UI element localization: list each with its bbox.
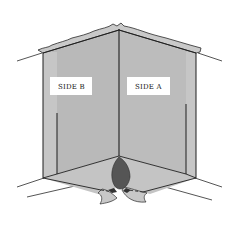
label-side-b: SIDE B <box>50 77 92 95</box>
corner-diagram: SIDE B SIDE A <box>0 0 235 237</box>
wall-side-a <box>119 29 196 178</box>
wall-edge-left <box>43 52 57 178</box>
side-a-text: SIDE A <box>135 83 163 91</box>
label-side-a: SIDE A <box>127 77 170 95</box>
side-b-text: SIDE B <box>58 83 85 91</box>
wall-edge-right <box>186 52 196 178</box>
